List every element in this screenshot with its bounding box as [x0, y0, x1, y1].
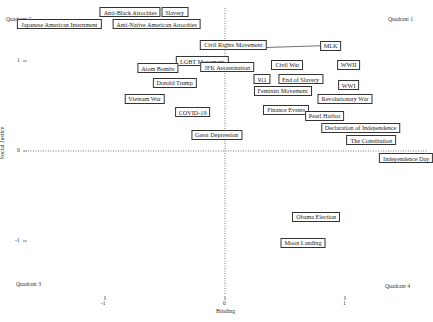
x-tick-label: -1	[101, 300, 106, 306]
point-label: End of Slavery	[278, 74, 323, 84]
point-label: Independence Day	[379, 153, 433, 163]
point-label: Civil War	[271, 60, 303, 70]
quadrant-1-label: Quadrant 1	[388, 16, 413, 22]
point-label: Slavery	[161, 7, 188, 17]
point-label: The Constitution	[347, 135, 397, 145]
quadrant-3-label: Quadrant 3	[16, 281, 41, 287]
point-label: Pearl Harbor	[305, 111, 345, 121]
point-label: Atom Bombs	[137, 63, 178, 73]
point-label: 911	[254, 74, 271, 84]
point-label: Finance Events	[263, 105, 309, 115]
x-axis-title: Binding	[216, 308, 235, 314]
point-label: Civil Rights Movement	[200, 40, 266, 50]
point-label: Obama Election	[292, 212, 340, 222]
point-label: Vietnam War	[124, 94, 165, 104]
point-label: WWII	[337, 60, 361, 70]
point-label: Anti-Native American Atrocities	[112, 19, 201, 29]
point-label: Great Depression	[191, 130, 242, 140]
y-tick-label: 1	[17, 57, 20, 63]
point-label: Revolutionary War	[318, 94, 373, 104]
point-label: JFK Assassination	[201, 62, 255, 72]
y-tick-label: 0	[17, 147, 20, 153]
point-label: Feminist Movement	[254, 86, 312, 96]
point-label: Moon Landing	[281, 238, 326, 248]
point-label: Japanese American Internment	[17, 19, 101, 29]
point-label: COVID-19	[175, 107, 211, 117]
point-label: Donald Trump	[152, 78, 196, 88]
quadrant-4-label: Quadrant 4	[385, 283, 410, 289]
x-tick-label: 0	[223, 300, 226, 306]
point-label: MLK	[320, 41, 342, 51]
point-label: Anti-Black Atrocities	[100, 7, 161, 17]
y-tick-label: -1	[15, 237, 20, 243]
y-axis-title: Social Justice	[0, 127, 5, 160]
point-label: WWI	[338, 80, 360, 90]
point-label: Declaration of Independence	[321, 123, 400, 133]
x-tick-label: 1	[343, 300, 346, 306]
